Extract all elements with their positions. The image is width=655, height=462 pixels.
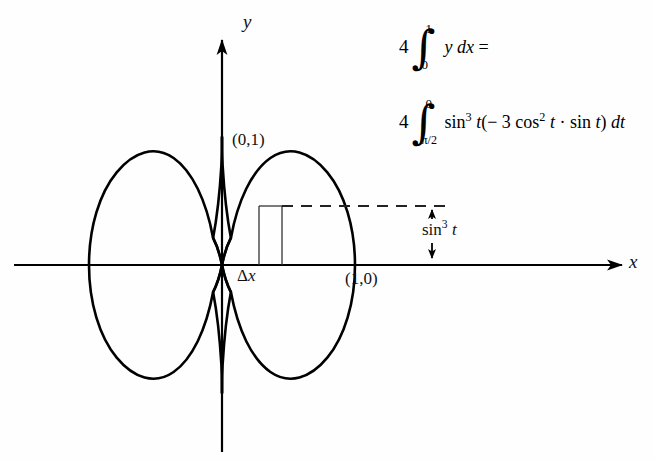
eq2-sin-exponent: 3 [466, 110, 472, 124]
eq2-coefficient: 4 [399, 111, 409, 133]
equation-two: 4 ∫ 0 π/2 sin3 t(− 3 cos2 t · sin t) dt [399, 97, 625, 147]
eq2-minus: − [487, 112, 497, 132]
point-label-0-1: (0,1) [232, 131, 265, 148]
equation-one: 4 ∫ 1 0 y dx = [399, 22, 489, 72]
astroid-figure [0, 0, 655, 462]
delta-symbol: Δ [237, 266, 248, 285]
eq1-equals: = [479, 37, 489, 57]
eq2-t-2: t [550, 112, 555, 132]
eq1-integral-sign: ∫ 1 0 [412, 22, 438, 72]
eq2-cos: cos [515, 112, 539, 132]
eq1-upper-limit: 1 [426, 21, 433, 37]
delta-x-label: Δx [237, 267, 255, 284]
eq2-cos-exponent: 2 [539, 110, 545, 124]
sin-exponent: 3 [442, 218, 448, 231]
eq1-integrand: y dx = [445, 37, 489, 58]
x-axis-label: x [629, 252, 637, 271]
eq2-integral-sign: ∫ 0 π/2 [412, 97, 438, 147]
eq2-integrand: sin3 t(− 3 cos2 t · sin t) dt [445, 112, 626, 133]
delta-x-var: x [248, 266, 256, 285]
eq2-close-paren: ) [600, 112, 606, 132]
eq2-sin-2: sin [570, 112, 591, 132]
y-axis-label: y [243, 12, 251, 31]
eq2-differential: dt [611, 112, 625, 132]
eq2-sin: sin [445, 112, 466, 132]
eq2-three: 3 [502, 112, 511, 132]
eq2-lower-limit: π/2 [422, 133, 437, 148]
area-strip [259, 206, 282, 265]
eq1-lower-limit: 0 [422, 57, 429, 73]
t-var: t [452, 220, 457, 239]
eq1-differential: dx [457, 37, 474, 57]
point-label-1-0: (1,0) [345, 270, 378, 287]
figure-page: y x (0,1) (1,0) Δx sin3 t 4 ∫ 1 0 y dx =… [0, 0, 655, 462]
eq2-upper-limit: 0 [426, 96, 433, 112]
sin-text: sin [422, 220, 442, 239]
eq2-dot: · [559, 112, 565, 132]
height-label: sin3 t [422, 221, 457, 238]
eq1-var-y: y [445, 37, 453, 57]
eq1-coefficient: 4 [399, 36, 409, 58]
